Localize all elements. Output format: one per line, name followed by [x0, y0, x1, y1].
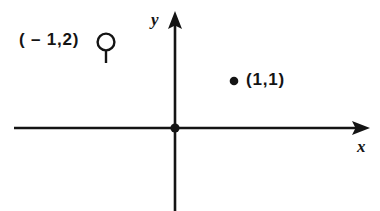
filled-dot-marker-one-one [230, 77, 239, 86]
point-label-one-one: (1,1) [246, 71, 285, 88]
x-axis-label: x [357, 138, 366, 155]
coordinate-plane-figure: ( – 1,2) (1,1) y x [0, 0, 380, 211]
open-circle-marker [98, 34, 115, 51]
origin-dot [170, 123, 179, 132]
point-label-neg-one-two: ( – 1,2) [19, 31, 79, 48]
y-axis-label: y [151, 11, 159, 28]
